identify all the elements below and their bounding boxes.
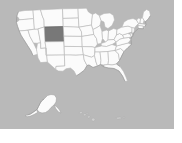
state-oregon[interactable] [16,19,34,31]
alaska-panhandle[interactable] [54,105,61,113]
map-panel[interactable]: Wyoming Alaska Hawaii [0,0,174,129]
state-new-york[interactable] [122,19,139,29]
caribbean-inset[interactable] [116,117,125,120]
state-north-dakota[interactable] [63,9,79,19]
hawaii-island-kauai[interactable] [79,111,82,113]
state-maine[interactable] [143,10,151,22]
alaska-inset[interactable] [25,95,61,117]
state-kansas[interactable] [64,36,82,46]
state-washington[interactable] [17,10,34,20]
state-alabama[interactable] [100,52,109,66]
virgin-islands[interactable] [123,117,125,118]
state-montana[interactable] [41,9,64,27]
state-pennsylvania[interactable] [117,26,133,35]
state-minnesota[interactable] [78,8,93,27]
state-colorado[interactable] [45,42,64,56]
state-wyoming-highlighted[interactable] [44,27,64,42]
hawaii-island-hawaii[interactable] [92,118,96,121]
right-margin [174,0,182,143]
hawaii-island-molokai[interactable] [86,113,88,114]
us-locator-map-figure: Wyoming Alaska Hawaii [0,0,182,143]
bottom-margin [0,129,182,143]
puerto-rico-island[interactable] [116,117,122,119]
state-michigan[interactable] [100,13,115,29]
state-oklahoma[interactable] [64,46,83,55]
us-map-svg[interactable] [0,0,174,129]
hawaii-island-maui[interactable] [87,116,90,118]
state-south-dakota[interactable] [63,18,79,27]
hawaii-inset[interactable] [79,111,95,121]
state-nebraska[interactable] [63,27,82,37]
hawaii-island-oahu[interactable] [83,114,86,116]
